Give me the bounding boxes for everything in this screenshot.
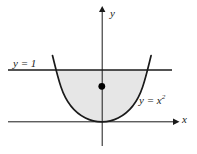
curve-label-exponent: 2 <box>162 93 166 101</box>
curve-label-base: y = x <box>139 94 162 106</box>
centroid-point <box>98 83 105 90</box>
label-y-equals-1: y = 1 <box>13 58 36 69</box>
figure-canvas <box>0 0 197 154</box>
x-axis-label: x <box>182 114 187 125</box>
math-figure: y = 1 y = x2 y x <box>0 0 197 154</box>
y-axis-label: y <box>110 8 115 19</box>
y-axis-arrowhead <box>99 6 105 12</box>
x-axis-arrowhead <box>173 119 180 125</box>
label-y-equals-x-squared: y = x2 <box>139 94 165 106</box>
